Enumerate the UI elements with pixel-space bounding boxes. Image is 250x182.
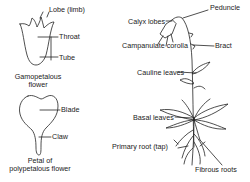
gamopetalous-flower-outline [20,17,54,65]
label-basal-leaves: Basal leaves [133,114,174,121]
label-lobe: Lobe (limb) [49,6,85,13]
label-tube: Tube [59,54,75,61]
label-calyx-lobes: Calyx lobes [128,18,165,25]
label-bract: Bract [215,42,232,49]
cauline-leaf [180,79,193,84]
caption-line: polypetalous flower [0,165,80,172]
label-blade: Blade [61,106,79,113]
label-throat: Throat [59,33,80,40]
caption-line: flower [2,81,74,88]
label-peduncle: Peduncle [210,4,240,11]
cauline-leaf [193,62,210,74]
diagram-drawing [0,0,250,182]
caption-polypetalous: Petal of polypetalous flower [0,157,80,172]
label-claw: Claw [52,133,68,140]
petal-outline [19,95,58,155]
caption-line: Petal of [0,157,80,164]
label-cauline-leaves: Cauline leaves [137,69,184,76]
label-campanulate-corolla: Campanulate corolla [122,42,188,49]
label-fibrous-roots: Fibrous roots [195,166,237,173]
label-primary-root: Primary root (tap) [112,143,168,150]
caption-gamopetalous: Gamopetalous flower [2,73,74,88]
caption-line: Gamopetalous [2,73,74,80]
primary-root [192,120,194,165]
